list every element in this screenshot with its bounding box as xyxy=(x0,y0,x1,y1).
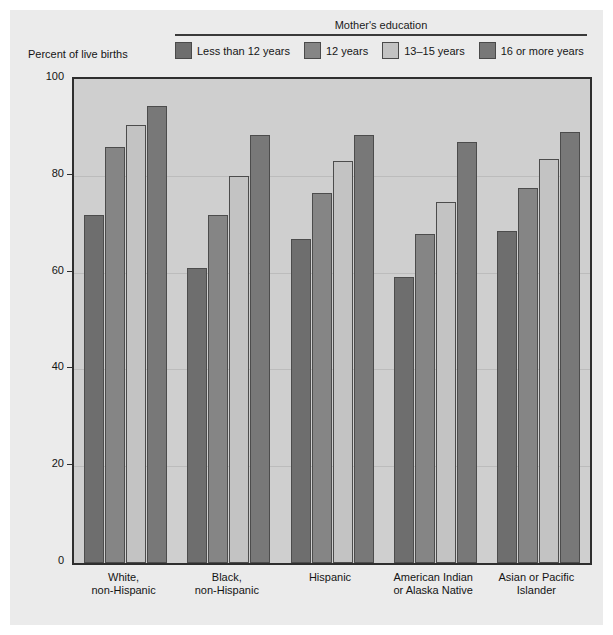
legend-item[interactable]: 13–15 years xyxy=(382,42,465,59)
bars-layer xyxy=(74,79,590,563)
bar[interactable] xyxy=(354,135,374,563)
legend-item-label: Less than 12 years xyxy=(197,45,290,57)
y-axis-tick-label: 80 xyxy=(10,167,64,179)
legend-item-list: Less than 12 years12 years13–15 years16 … xyxy=(175,42,587,59)
bar[interactable] xyxy=(105,147,125,563)
bar[interactable] xyxy=(539,159,559,563)
plot-area xyxy=(72,77,592,565)
y-axis-label: Percent of live births xyxy=(28,48,128,60)
legend-swatch-icon xyxy=(175,42,192,59)
legend-item[interactable]: 16 or more years xyxy=(479,42,584,59)
bar[interactable] xyxy=(415,234,435,563)
bar[interactable] xyxy=(457,142,477,563)
bar[interactable] xyxy=(312,193,332,563)
legend-swatch-icon xyxy=(382,42,399,59)
legend-title: Mother's education xyxy=(175,18,587,32)
legend-item-label: 13–15 years xyxy=(404,45,465,57)
legend-item[interactable]: Less than 12 years xyxy=(175,42,290,59)
bar[interactable] xyxy=(187,268,207,563)
legend-swatch-icon xyxy=(479,42,496,59)
bar[interactable] xyxy=(250,135,270,563)
y-axis-tick-label: 40 xyxy=(10,360,64,372)
bar[interactable] xyxy=(147,106,167,563)
legend-item-label: 16 or more years xyxy=(501,45,584,57)
bar[interactable] xyxy=(291,239,311,563)
bar[interactable] xyxy=(229,176,249,563)
bar[interactable] xyxy=(394,277,414,563)
y-axis-tick-label: 0 xyxy=(10,554,64,566)
legend-item[interactable]: 12 years xyxy=(304,42,368,59)
legend-divider xyxy=(175,34,587,36)
legend-swatch-icon xyxy=(304,42,321,59)
legend-item-label: 12 years xyxy=(326,45,368,57)
legend: Mother's education Less than 12 years12 … xyxy=(175,18,587,59)
bar[interactable] xyxy=(560,132,580,563)
y-axis-tick-mark xyxy=(67,174,72,175)
bar[interactable] xyxy=(126,125,146,563)
bar[interactable] xyxy=(208,215,228,563)
bar[interactable] xyxy=(436,202,456,563)
y-axis-tick-mark xyxy=(67,367,72,368)
bar[interactable] xyxy=(518,188,538,563)
bar[interactable] xyxy=(84,215,104,563)
bar[interactable] xyxy=(333,161,353,563)
y-axis-tick-label: 20 xyxy=(10,457,64,469)
y-axis-tick-mark xyxy=(67,271,72,272)
y-axis-tick-mark xyxy=(67,464,72,465)
x-axis-category-label: Asian or Pacific Islander xyxy=(471,571,601,597)
bar[interactable] xyxy=(497,231,517,563)
y-axis-tick-label: 100 xyxy=(10,70,64,82)
chart-figure: Mother's education Less than 12 years12 … xyxy=(0,0,613,635)
figure-panel: Mother's education Less than 12 years12 … xyxy=(10,10,603,625)
y-axis-tick-label: 60 xyxy=(10,264,64,276)
